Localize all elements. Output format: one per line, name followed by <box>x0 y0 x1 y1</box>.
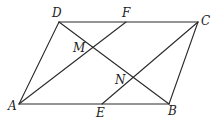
point-label-f: F <box>121 6 131 20</box>
point-label-c: C <box>201 14 210 28</box>
point-label-e: E <box>95 106 105 120</box>
point-label-b: B <box>167 104 177 118</box>
point-label-n: N <box>114 73 126 87</box>
segment-db <box>59 22 169 104</box>
segment-da <box>19 22 59 104</box>
point-label-m: M <box>72 41 86 55</box>
parallelogram-diagram: ABCDEFMN <box>0 0 215 129</box>
point-label-d: D <box>51 6 62 20</box>
segments-group <box>19 22 198 104</box>
segment-af <box>19 22 126 104</box>
labels-group: ABCDEFMN <box>7 6 210 120</box>
point-label-a: A <box>7 99 17 113</box>
